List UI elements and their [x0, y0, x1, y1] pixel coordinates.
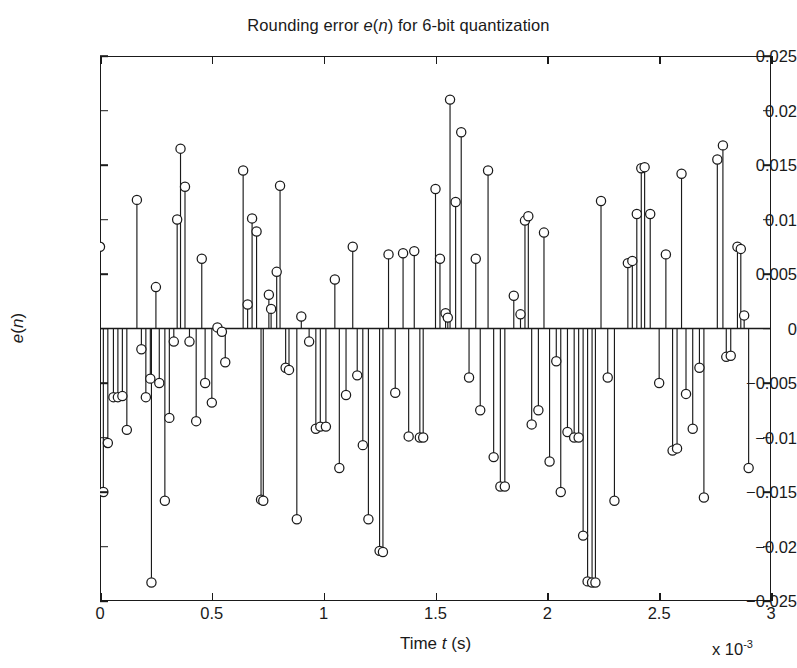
- x-axis-exponent-base: x 10: [712, 640, 743, 658]
- x-tick-mark: [771, 593, 773, 601]
- x-axis-exponent-power: -3: [743, 638, 753, 650]
- x-axis-label: Time t (s): [100, 634, 771, 654]
- x-axis-label-post: (s): [447, 634, 472, 653]
- y-axis-label-wrap: e(n): [26, 0, 27, 668]
- x-tick-mark-top: [771, 56, 773, 64]
- chart-figure: Rounding error e(n) for 6-bit quantizati…: [0, 0, 797, 668]
- x-axis-label-pre: Time: [400, 634, 442, 653]
- x-axis-exponent-label: x 10-3: [712, 638, 753, 659]
- x-axis-label-wrap: Time t (s): [100, 0, 771, 668]
- y-axis-label: e(n): [8, 313, 28, 343]
